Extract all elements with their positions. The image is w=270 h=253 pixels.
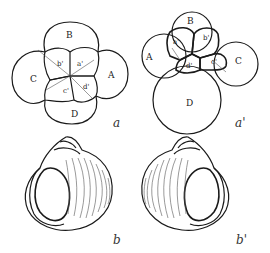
caption-b: b [113, 233, 121, 247]
shell-outline [142, 137, 229, 230]
label-b-prime: b' [203, 34, 209, 42]
label-C: C [30, 74, 37, 84]
macromere-C [12, 51, 45, 103]
label-b-prime: b' [57, 60, 63, 68]
cleavage-line [38, 50, 70, 76]
label-D: D [186, 98, 193, 108]
embryo-diagram-a: B C A D b' a' c' d' a [12, 22, 128, 130]
caption-b-prime: b' [236, 233, 247, 247]
label-D: D [71, 109, 78, 119]
shell-outline [25, 137, 112, 230]
micromere-a [70, 48, 99, 77]
micromere-c [45, 76, 74, 102]
label-c-prime: c' [211, 58, 217, 66]
label-B: B [187, 16, 194, 26]
label-B: B [66, 30, 73, 40]
shell-spire [178, 141, 194, 148]
label-a-prime: a' [173, 38, 179, 46]
shell-spire [54, 148, 80, 154]
label-d-prime: d' [83, 83, 89, 91]
label-C: C [235, 56, 242, 66]
figure-canvas: B C A D b' a' c' d' a B A C D a' b' c' d… [0, 0, 270, 253]
shell-illustration-sinistral: b' [142, 137, 247, 247]
label-a-prime: a' [77, 60, 83, 68]
label-c-prime: c' [63, 87, 69, 95]
shell-ribs [66, 158, 110, 218]
shell-illustration-dextral: b [25, 137, 120, 247]
embryo-diagram-a-prime: B A C D a' b' c' d' a' [142, 12, 258, 134]
shell-ribs [144, 158, 188, 218]
label-A: A [107, 70, 115, 80]
shell-spire [60, 141, 76, 148]
caption-a-prime: a' [235, 116, 245, 130]
caption-a: a [113, 116, 120, 130]
label-d-prime: d' [186, 62, 192, 70]
shell-spire [174, 148, 200, 154]
label-A: A [145, 52, 153, 62]
shell-aperture [35, 168, 70, 221]
shell-aperture [184, 168, 219, 221]
